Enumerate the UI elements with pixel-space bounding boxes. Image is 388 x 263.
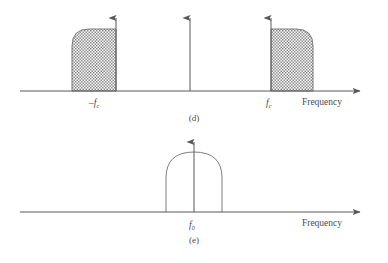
tick-label-neg-fc: –fc [88,98,99,109]
panel-e-axis-label: Frequency [302,218,342,228]
tick-label-f0: f0 [189,220,196,231]
figure-root: –fc fc Frequency (d) f0 Freque [0,0,388,263]
frequency-spectrum-figure: –fc fc Frequency (d) f0 Freque [0,0,388,263]
panel-e: f0 Frequency (e) [20,142,360,245]
upper-sideband-block [271,29,313,91]
tick-subscript: c [269,102,272,109]
panel-d-caption: (d) [189,113,200,123]
tick-subscript: 0 [192,224,196,231]
panel-d: –fc fc Frequency (d) [20,18,360,123]
panel-d-axis-label: Frequency [302,97,342,107]
tick-label-pos-fc: fc [266,98,272,109]
panel-e-caption: (e) [189,235,199,245]
lower-sideband-block [72,29,116,91]
tick-subscript: c [96,102,99,109]
